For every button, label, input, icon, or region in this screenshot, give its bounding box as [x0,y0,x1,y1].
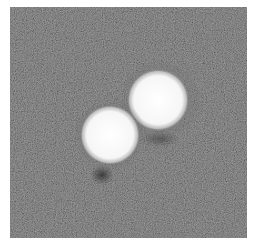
particle-lower-left [80,105,140,165]
micrograph [10,7,247,238]
micrograph-canvas [10,7,247,238]
